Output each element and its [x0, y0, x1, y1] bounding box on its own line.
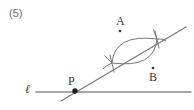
line-l-label: ℓ	[25, 83, 30, 95]
arc-right	[112, 39, 157, 64]
arc-left-overshoot-lower	[103, 63, 112, 69]
problem-number-label: (5)	[9, 8, 22, 19]
point-p-label: P	[68, 75, 75, 87]
point-a-dot	[119, 30, 122, 33]
arc-left	[112, 38, 157, 63]
point-a-label: A	[116, 15, 125, 27]
point-b-dot	[152, 67, 155, 70]
geometry-figure: (5) A B P ℓ	[0, 0, 194, 110]
point-p-dot	[72, 88, 77, 93]
point-b-label: B	[149, 71, 157, 83]
